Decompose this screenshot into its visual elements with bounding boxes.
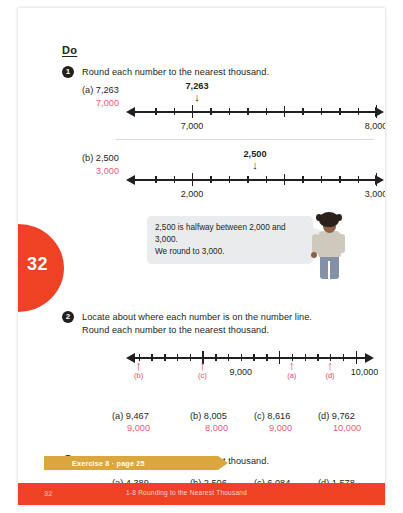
task-2-answers: (a) 9,467 9,000 (b) 8,005 8,000 (c) 8,61… xyxy=(82,411,382,437)
task-1-part-b: (b) 2,500 3,000 2,500 ↓ xyxy=(82,153,382,207)
up-arrow-icon: ↑ xyxy=(134,361,143,370)
task-2-numberline: 9,000 10,000 ↑ (b) ↑ (c) ↑ (a) ↑ (d) xyxy=(134,357,366,359)
task-2-answer-a: (a) 9,467 9,000 xyxy=(112,411,150,433)
section-heading-do: Do xyxy=(62,44,382,56)
task-2-numberline-block: 9,000 10,000 ↑ (b) ↑ (c) ↑ (a) ↑ (d) xyxy=(82,349,382,389)
task-2-answer-a-value: 9,000 xyxy=(127,423,150,433)
speech-bubble: 2,500 is halfway between 2,000 and 3,000… xyxy=(147,216,313,264)
task-2-instruction-line-1: Locate about where each number is on the… xyxy=(82,311,382,324)
speech-bubble-line-2: We round to 3,000. xyxy=(155,246,305,258)
character-torso xyxy=(318,231,341,257)
task-2-answer-b: (b) 8,005 8,000 xyxy=(190,411,228,433)
task-2-answer-d: (d) 9,762 10,000 xyxy=(318,411,361,433)
task-2: 2 Locate about where each number is on t… xyxy=(62,311,382,337)
task-1-part-b-left-label: 2,000 xyxy=(181,189,204,199)
task-1-instruction: Round each number to the nearest thousan… xyxy=(82,66,382,79)
task-2-label-9000: 9,000 xyxy=(229,367,252,377)
task-2-answer-c-value: 9,000 xyxy=(269,423,292,433)
down-arrow-icon: ↓ xyxy=(186,92,209,102)
footer-page-number: 32 xyxy=(44,489,52,498)
task-2-answer-c-question: (c) 8,616 xyxy=(254,411,292,421)
task-2-marker-b-label: (b) xyxy=(134,371,143,380)
divider xyxy=(116,139,374,140)
task-1-part-a-numberline: 7,000 8,000 xyxy=(134,111,376,113)
banner-pencil-tip-icon xyxy=(218,456,228,470)
task-1-part-a-left-label: 7,000 xyxy=(181,121,204,131)
task-2-answer-a-question: (a) 9,467 xyxy=(112,411,150,421)
task-1: 1 Round each number to the nearest thous… xyxy=(62,66,382,79)
exercise-reference-banner[interactable]: Exercise 8 · page 25 xyxy=(44,456,218,470)
task-2-number: 2 xyxy=(62,311,74,323)
arrow-left-icon xyxy=(126,107,135,117)
task-1-part-a-pointer: 7,263 ↓ xyxy=(186,81,209,102)
up-arrow-icon: ↑ xyxy=(198,361,207,370)
character-left-hand xyxy=(311,252,317,258)
speech-bubble-line-1: 2,500 is halfway between 2,000 and 3,000… xyxy=(155,222,305,246)
task-1-part-a-pointer-value: 7,263 xyxy=(186,81,209,91)
page-tab-number: 32 xyxy=(27,254,48,275)
task-1-part-b-pointer-value: 2,500 xyxy=(244,149,267,159)
task-2-marker-c: ↑ (c) xyxy=(198,361,207,380)
task-2-marker-c-label: (c) xyxy=(198,371,207,380)
character-hair xyxy=(319,212,339,227)
footer-lesson-title: 1-8 Rounding to the Nearest Thousand xyxy=(126,489,247,496)
character-legs xyxy=(320,255,339,279)
task-1-part-b-pointer: 2,500 ↓ xyxy=(244,149,267,170)
task-2-marker-b: ↑ (b) xyxy=(134,361,143,380)
arrow-right-icon xyxy=(365,353,374,363)
exercise-reference-label: Exercise 8 · page 25 xyxy=(72,459,145,468)
task-1-part-a-answer: 7,000 xyxy=(96,98,119,108)
task-2-answer-b-value: 8,000 xyxy=(205,423,228,433)
task-2-marker-d-label: (d) xyxy=(325,371,334,380)
task-2-answer-d-question: (d) 9,762 xyxy=(318,411,361,421)
task-2-answer-b-question: (b) 8,005 xyxy=(190,411,228,421)
task-1-part-b-numberline: 2,000 3,000 xyxy=(134,179,376,181)
task-1-number: 1 xyxy=(62,66,74,78)
task-1-part-b-right-label: 3,000 xyxy=(365,189,385,199)
page-number-tab: 32 xyxy=(18,224,64,312)
down-arrow-icon: ↓ xyxy=(244,160,267,170)
task-2-marker-a: ↑ (a) xyxy=(287,361,296,380)
task-2-marker-a-label: (a) xyxy=(287,371,296,380)
task-1-part-b-answer: 3,000 xyxy=(96,166,119,176)
textbook-page: 32 Do 1 Round each number to the nearest… xyxy=(18,8,385,505)
task-2-answer-c: (c) 8,616 9,000 xyxy=(254,411,292,433)
arrow-left-icon xyxy=(126,175,135,185)
task-2-label-10000: 10,000 xyxy=(351,367,379,377)
up-arrow-icon: ↑ xyxy=(325,361,334,370)
page-footer: 32 1-8 Rounding to the Nearest Thousand xyxy=(18,483,385,505)
task-2-marker-d: ↑ (d) xyxy=(325,361,334,380)
task-2-answer-d-value: 10,000 xyxy=(333,423,361,433)
up-arrow-icon: ↑ xyxy=(287,361,296,370)
page-content: Do 1 Round each number to the nearest th… xyxy=(62,44,382,504)
task-2-instruction-line-2: Round each number to the nearest thousan… xyxy=(82,324,382,337)
task-1-part-a-right-label: 8,000 xyxy=(365,121,385,131)
student-character-illustration xyxy=(310,212,350,282)
task-1-part-a-label: (a) 7,263 xyxy=(82,85,119,95)
task-1-part-a: (a) 7,263 7,000 7,263 ↓ xyxy=(82,85,382,143)
task-1-part-b-label: (b) 2,500 xyxy=(82,153,119,163)
